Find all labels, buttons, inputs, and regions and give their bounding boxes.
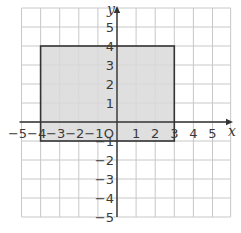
x-tick-label: 5 — [208, 126, 216, 141]
y-axis-label: y — [106, 1, 116, 17]
y-tick-label: 4 — [106, 39, 114, 54]
x-tick-label: 1 — [132, 126, 140, 141]
y-tick-label: 2 — [106, 77, 114, 92]
x-tick-label: 2 — [151, 126, 159, 141]
origin-label: O — [104, 126, 114, 141]
y-tick-label: 3 — [106, 58, 114, 73]
y-tick-label: −5 — [95, 210, 114, 225]
x-tick-label: −4 — [27, 126, 46, 141]
x-tick-label: −5 — [8, 126, 27, 141]
x-tick-label: 4 — [189, 126, 197, 141]
y-tick-label: 1 — [106, 96, 114, 111]
coordinate-plane: −5−4−3−2−11234554321−1−2−3−4−5Oxy — [0, 0, 241, 233]
y-tick-label: −4 — [95, 191, 114, 206]
x-tick-label: −2 — [65, 126, 84, 141]
y-tick-label: −3 — [95, 172, 114, 187]
y-tick-label: 5 — [106, 20, 114, 35]
y-tick-label: −2 — [95, 153, 114, 168]
x-axis-label: x — [228, 123, 236, 139]
x-tick-label: 3 — [170, 126, 178, 141]
x-tick-label: −3 — [46, 126, 65, 141]
